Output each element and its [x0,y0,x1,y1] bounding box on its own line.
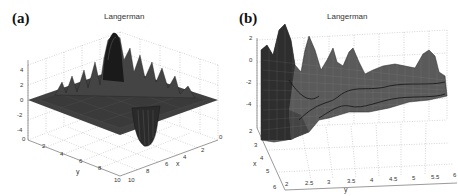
y-tick: 0 [22,136,25,142]
y-tick: 5 [412,175,415,181]
chart-panel-a: (a) Langerman 4 2 0 -2 -4 0 2 4 6 8 10 y… [0,0,229,196]
y-tick: 3 [327,179,330,185]
plot-title-b: Langerman [327,12,367,21]
x-tick: 4 [260,155,263,161]
y-tick: 2.5 [305,180,313,186]
x-tick: 5 [266,168,269,174]
y-tick: 2 [285,181,288,187]
x-tick: 0 [219,134,222,140]
x-tick: 2 [249,128,252,134]
y-tick: 6 [453,172,456,178]
z-tick: 0 [249,57,252,63]
y-tick: 4.5 [389,176,397,182]
x-tick: 3 [254,142,257,148]
z-tick: 2 [20,82,23,88]
z-tick: -2 [246,79,251,85]
x-tick: 2 [201,147,204,153]
x-tick: 6 [273,184,276,190]
y-tick: 5.5 [431,174,439,180]
panel-label-b: (b) [239,10,257,27]
z-tick: -4 [17,127,22,133]
x-tick: 10 [128,177,135,183]
x-axis-label: x [253,160,257,167]
panel-label-a: (a) [12,10,30,27]
z-tick: -2 [17,112,22,118]
y-tick: 3.5 [347,178,355,184]
y-tick: 6 [79,158,82,164]
y-axis-label: y [76,168,80,175]
x-tick: 6 [165,161,168,167]
plot-title-a: Langerman [104,12,144,21]
y-axis-label: y [344,186,348,193]
surface-plot-a [0,0,229,196]
z-tick: 0 [20,97,23,103]
y-tick: 8 [98,165,101,171]
y-tick: 4 [370,177,373,183]
z-tick: 2 [249,35,252,41]
y-tick: 4 [60,151,63,157]
x-tick: 8 [146,168,149,174]
x-axis-label: x [176,160,180,167]
y-tick: 10 [114,177,121,183]
y-tick: 2 [42,143,45,149]
surface-plot-b [229,0,458,196]
z-tick: 4 [20,67,23,73]
chart-panel-b: (b) Langerman 2 0 -2 -4 2 3 4 5 6 x 2 2.… [229,0,458,196]
x-tick: 4 [183,154,186,160]
z-tick: -4 [246,101,251,107]
